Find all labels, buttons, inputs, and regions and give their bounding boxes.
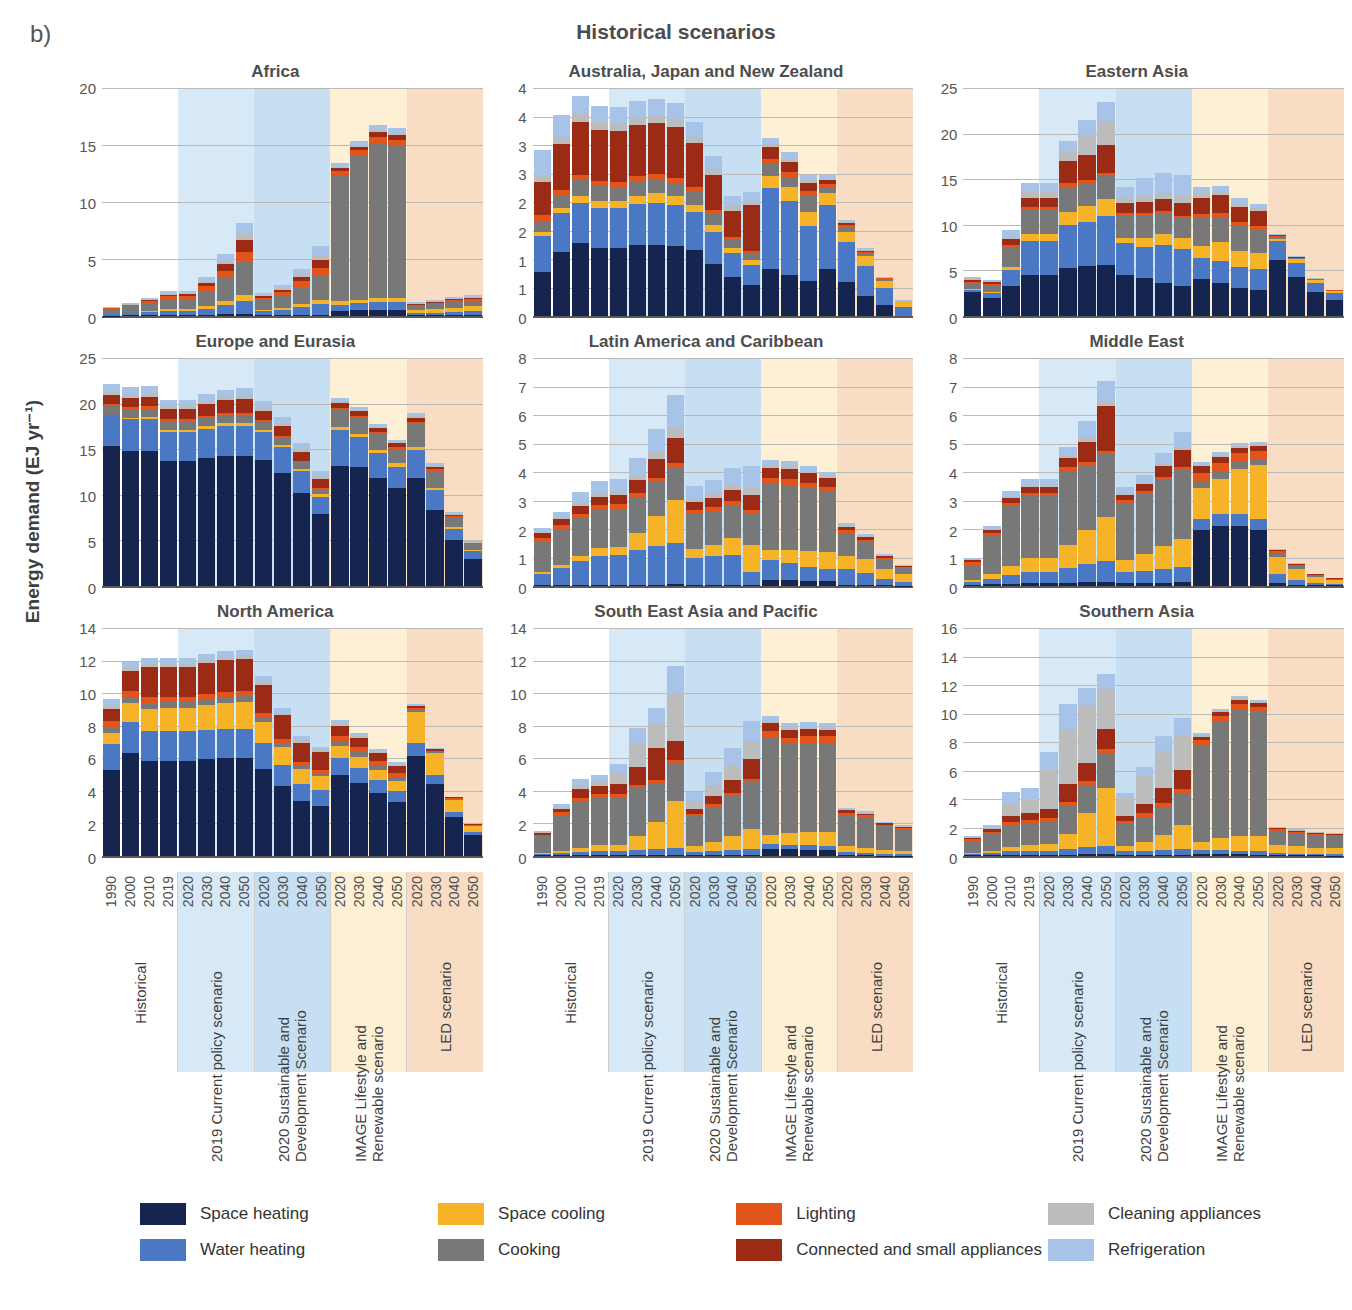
stacked-bar[interactable] [724, 358, 741, 586]
stacked-bar[interactable] [781, 88, 798, 316]
legend-item-space-cooling[interactable]: Space cooling [438, 1196, 730, 1232]
stacked-bar[interactable] [876, 358, 893, 586]
stacked-bar[interactable] [1078, 88, 1095, 316]
stacked-bar[interactable] [293, 628, 310, 856]
stacked-bar[interactable] [1021, 88, 1038, 316]
stacked-bar[interactable] [1136, 358, 1153, 586]
stacked-bar[interactable] [1155, 88, 1172, 316]
stacked-bar[interactable] [1212, 628, 1229, 856]
stacked-bar[interactable] [800, 628, 817, 856]
stacked-bar[interactable] [103, 628, 120, 856]
stacked-bar[interactable] [1288, 358, 1305, 586]
stacked-bar[interactable] [781, 628, 798, 856]
stacked-bar[interactable] [1021, 628, 1038, 856]
stacked-bar[interactable] [274, 628, 291, 856]
stacked-bar[interactable] [857, 628, 874, 856]
stacked-bar[interactable] [1097, 88, 1114, 316]
stacked-bar[interactable] [255, 358, 272, 586]
stacked-bar[interactable] [274, 88, 291, 316]
stacked-bar[interactable] [838, 358, 855, 586]
stacked-bar[interactable] [743, 88, 760, 316]
stacked-bar[interactable] [217, 628, 234, 856]
stacked-bar[interactable] [534, 358, 551, 586]
stacked-bar[interactable] [983, 628, 1000, 856]
stacked-bar[interactable] [198, 88, 215, 316]
stacked-bar[interactable] [369, 628, 386, 856]
stacked-bar[interactable] [964, 88, 981, 316]
stacked-bar[interactable] [141, 358, 158, 586]
stacked-bar[interactable] [800, 88, 817, 316]
legend-item-connected-and-small-appliances[interactable]: Connected and small appliances [736, 1232, 1042, 1268]
stacked-bar[interactable] [534, 628, 551, 856]
stacked-bar[interactable] [179, 88, 196, 316]
stacked-bar[interactable] [1307, 88, 1324, 316]
stacked-bar[interactable] [705, 88, 722, 316]
stacked-bar[interactable] [331, 628, 348, 856]
stacked-bar[interactable] [141, 628, 158, 856]
stacked-bar[interactable] [388, 628, 405, 856]
stacked-bar[interactable] [1231, 628, 1248, 856]
stacked-bar[interactable] [350, 358, 367, 586]
stacked-bar[interactable] [426, 628, 443, 856]
stacked-bar[interactable] [1174, 628, 1191, 856]
stacked-bar[interactable] [743, 358, 760, 586]
stacked-bar[interactable] [876, 88, 893, 316]
stacked-bar[interactable] [1097, 358, 1114, 586]
stacked-bar[interactable] [122, 88, 139, 316]
stacked-bar[interactable] [1231, 358, 1248, 586]
stacked-bar[interactable] [1307, 358, 1324, 586]
stacked-bar[interactable] [667, 628, 684, 856]
stacked-bar[interactable] [1040, 358, 1057, 586]
stacked-bar[interactable] [160, 628, 177, 856]
stacked-bar[interactable] [236, 628, 253, 856]
stacked-bar[interactable] [1307, 628, 1324, 856]
stacked-bar[interactable] [819, 358, 836, 586]
stacked-bar[interactable] [964, 628, 981, 856]
stacked-bar[interactable] [236, 88, 253, 316]
stacked-bar[interactable] [350, 88, 367, 316]
stacked-bar[interactable] [1212, 358, 1229, 586]
stacked-bar[interactable] [762, 358, 779, 586]
stacked-bar[interactable] [743, 628, 760, 856]
stacked-bar[interactable] [293, 88, 310, 316]
stacked-bar[interactable] [534, 88, 551, 316]
stacked-bar[interactable] [1116, 88, 1133, 316]
stacked-bar[interactable] [1021, 358, 1038, 586]
stacked-bar[interactable] [312, 358, 329, 586]
stacked-bar[interactable] [1288, 88, 1305, 316]
stacked-bar[interactable] [179, 628, 196, 856]
stacked-bar[interactable] [1059, 628, 1076, 856]
stacked-bar[interactable] [331, 358, 348, 586]
stacked-bar[interactable] [895, 88, 912, 316]
stacked-bar[interactable] [388, 358, 405, 586]
stacked-bar[interactable] [426, 88, 443, 316]
stacked-bar[interactable] [572, 88, 589, 316]
legend-item-space-heating[interactable]: Space heating [140, 1196, 432, 1232]
stacked-bar[interactable] [312, 88, 329, 316]
stacked-bar[interactable] [553, 628, 570, 856]
stacked-bar[interactable] [895, 358, 912, 586]
stacked-bar[interactable] [1002, 88, 1019, 316]
stacked-bar[interactable] [876, 628, 893, 856]
stacked-bar[interactable] [1288, 628, 1305, 856]
stacked-bar[interactable] [629, 628, 646, 856]
stacked-bar[interactable] [1116, 358, 1133, 586]
stacked-bar[interactable] [103, 88, 120, 316]
stacked-bar[interactable] [255, 88, 272, 316]
stacked-bar[interactable] [1193, 88, 1210, 316]
stacked-bar[interactable] [255, 628, 272, 856]
stacked-bar[interactable] [445, 88, 462, 316]
stacked-bar[interactable] [160, 358, 177, 586]
stacked-bar[interactable] [686, 358, 703, 586]
stacked-bar[interactable] [572, 628, 589, 856]
stacked-bar[interactable] [724, 88, 741, 316]
stacked-bar[interactable] [667, 88, 684, 316]
stacked-bar[interactable] [591, 628, 608, 856]
stacked-bar[interactable] [464, 358, 481, 586]
stacked-bar[interactable] [179, 358, 196, 586]
stacked-bar[interactable] [1078, 628, 1095, 856]
stacked-bar[interactable] [819, 88, 836, 316]
stacked-bar[interactable] [1116, 628, 1133, 856]
stacked-bar[interactable] [236, 358, 253, 586]
stacked-bar[interactable] [464, 88, 481, 316]
